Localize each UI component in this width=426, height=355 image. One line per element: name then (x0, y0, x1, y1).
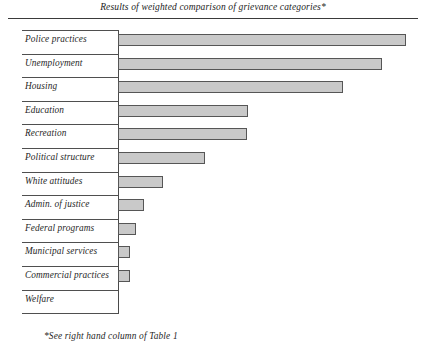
category-label: Unemployment (25, 58, 82, 68)
chart-row: Police practices (22, 30, 408, 53)
bar (118, 34, 406, 46)
bar (118, 246, 130, 258)
bar (118, 199, 144, 211)
chart-row: Welfare (22, 290, 408, 313)
chart-row: Housing (22, 77, 408, 100)
chart-row: Recreation (22, 124, 408, 147)
bottom-rule (22, 313, 119, 314)
chart-row: White attitudes (22, 172, 408, 195)
row-rule (22, 195, 119, 196)
row-rule (22, 54, 119, 55)
bar (118, 81, 343, 93)
row-rule (22, 30, 119, 31)
category-label: Federal programs (25, 223, 94, 233)
category-label: Municipal services (25, 246, 97, 256)
category-label: Police practices (25, 34, 87, 44)
category-label: Recreation (25, 128, 66, 138)
row-rule (22, 290, 119, 291)
category-label: White attitudes (25, 176, 83, 186)
row-rule (22, 101, 119, 102)
row-rule (22, 148, 119, 149)
title-rule (8, 18, 418, 19)
chart-row: Commercial practices (22, 266, 408, 289)
chart-row: Education (22, 101, 408, 124)
bar (118, 58, 382, 70)
row-rule (22, 242, 119, 243)
footnote: *See right hand column of Table 1 (44, 331, 178, 341)
category-label: Commercial practices (25, 270, 109, 280)
bar (118, 128, 247, 140)
row-rule (22, 124, 119, 125)
bar (118, 176, 163, 188)
category-label: Education (25, 105, 64, 115)
figure: Results of weighted comparison of grieva… (0, 0, 426, 355)
chart-row: Admin. of justice (22, 195, 408, 218)
chart-row: Political structure (22, 148, 408, 171)
bar (118, 105, 248, 117)
bar (118, 223, 136, 235)
row-rule (22, 219, 119, 220)
row-rule (22, 77, 119, 78)
chart-title: Results of weighted comparison of grieva… (0, 2, 426, 12)
plot-area: Police practices Unemployment Housing Ed… (22, 30, 408, 313)
chart-row: Federal programs (22, 219, 408, 242)
chart-row: Unemployment (22, 54, 408, 77)
row-rule (22, 266, 119, 267)
category-label: Housing (25, 81, 57, 91)
category-label: Welfare (25, 294, 54, 304)
bar (118, 152, 205, 164)
row-rule (22, 172, 119, 173)
category-label: Admin. of justice (25, 199, 89, 209)
bar (118, 270, 130, 282)
category-label: Political structure (25, 152, 94, 162)
chart-row: Municipal services (22, 242, 408, 265)
